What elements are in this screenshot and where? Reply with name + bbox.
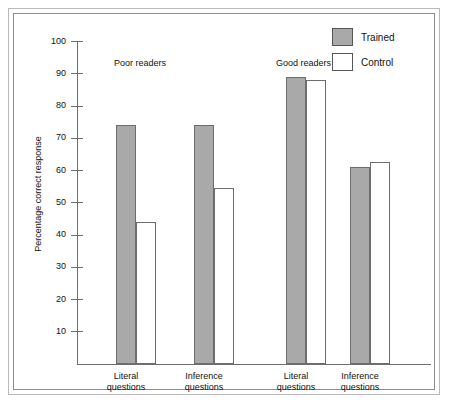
group-heading-1: Poor readers <box>114 58 166 68</box>
bar-trained-2 <box>194 125 214 364</box>
group-heading-2: Good readers <box>276 58 331 68</box>
y-axis-tick-label-wrap: 10 <box>14 327 66 336</box>
y-axis-tick-label: 70 <box>40 133 66 142</box>
bar-chart-plot: 100908070605040302010 Percentage correct… <box>14 14 434 389</box>
legend-label-control: Control <box>361 57 393 68</box>
legend-swatch-trained-icon <box>332 28 353 46</box>
x-axis-label-4: Inferencequestions <box>323 371 397 393</box>
x-axis-label-line: Inference <box>323 371 397 382</box>
legend-swatch-control-icon <box>332 53 353 71</box>
y-axis-tick <box>71 41 83 42</box>
x-axis-label-line: questions <box>167 382 241 393</box>
y-axis-tick <box>71 235 83 236</box>
y-axis-tick-label-wrap: 20 <box>14 295 66 304</box>
y-axis-tick <box>71 106 83 107</box>
y-axis-tick <box>71 331 83 332</box>
x-axis-label-line: Literal <box>259 371 333 382</box>
x-axis-label-line: Literal <box>89 371 163 382</box>
y-axis-tick-label: 20 <box>40 295 66 304</box>
x-axis-label-2: Inferencequestions <box>167 371 241 393</box>
chart-legend: Trained Control <box>332 28 432 78</box>
y-axis-tick-label: 10 <box>40 327 66 336</box>
y-axis-tick-label: 60 <box>40 166 66 175</box>
bar-control-2 <box>214 188 234 364</box>
figure-inner-border: 100908070605040302010 Percentage correct… <box>13 13 435 390</box>
y-axis-tick <box>71 299 83 300</box>
y-axis-tick-label: 90 <box>40 69 66 78</box>
bar-trained-1 <box>116 125 136 364</box>
bar-control-4 <box>370 162 390 364</box>
y-axis-tick <box>71 202 83 203</box>
bar-control-1 <box>136 222 156 364</box>
x-axis-label-1: Literalquestions <box>89 371 163 393</box>
y-axis-tick-label: 50 <box>40 198 66 207</box>
y-axis-tick <box>71 73 83 74</box>
y-axis-tick <box>71 138 83 139</box>
x-axis-label-line: Inference <box>167 371 241 382</box>
x-axis-label-3: Literalquestions <box>259 371 333 393</box>
y-axis-tick-label-wrap: 100 <box>14 37 66 46</box>
x-axis-label-line: questions <box>259 382 333 393</box>
bar-trained-4 <box>350 167 370 364</box>
x-axis-label-line: questions <box>89 382 163 393</box>
y-axis-tick <box>71 267 83 268</box>
bar-trained-3 <box>286 77 306 364</box>
y-axis-tick-label: 30 <box>40 262 66 271</box>
y-axis-title: Percentage correct response <box>33 109 43 279</box>
y-axis-tick-label-wrap: 90 <box>14 69 66 78</box>
y-axis-tick-label: 80 <box>40 101 66 110</box>
y-axis-tick-label: 40 <box>40 230 66 239</box>
y-axis-tick <box>71 170 83 171</box>
figure-outer-border: 100908070605040302010 Percentage correct… <box>8 8 440 395</box>
x-axis-label-line: questions <box>323 382 397 393</box>
legend-item-control: Control <box>332 53 432 71</box>
x-axis-line <box>77 364 431 365</box>
legend-item-trained: Trained <box>332 28 432 46</box>
y-axis-tick-label: 100 <box>40 37 66 46</box>
legend-label-trained: Trained <box>361 32 395 43</box>
bar-control-3 <box>306 80 326 364</box>
